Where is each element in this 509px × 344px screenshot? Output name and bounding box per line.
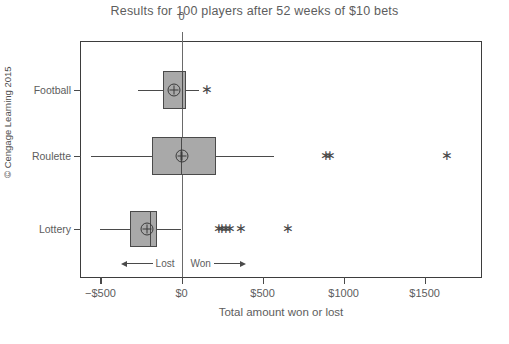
x-tick xyxy=(182,277,183,284)
outlier-marker: ∗ xyxy=(441,149,453,163)
y-tick-label-football: Football xyxy=(34,84,71,96)
plot-area: 0 ∗∗∗∗∗∗∗∗∗∗ FootballRouletteLottery −$5… xyxy=(80,41,482,278)
whisker-high xyxy=(216,156,274,157)
arrow-right-icon xyxy=(240,261,246,267)
direction-label: Won xyxy=(188,258,214,269)
mean-marker-icon xyxy=(140,223,153,236)
x-tick xyxy=(344,277,345,284)
direction-bar xyxy=(127,263,153,264)
y-tick-label-lottery: Lottery xyxy=(39,223,71,235)
x-tick xyxy=(425,277,426,284)
x-tick-label: −$500 xyxy=(85,287,116,299)
x-tick-label: $500 xyxy=(250,287,274,299)
y-tick xyxy=(74,156,81,157)
median-line xyxy=(182,71,183,109)
boxplot-figure: Results for 100 players after 52 weeks o… xyxy=(0,0,509,344)
y-tick xyxy=(74,90,81,91)
mean-marker-icon xyxy=(168,84,181,97)
y-tick-label-roulette: Roulette xyxy=(32,150,71,162)
x-tick xyxy=(100,277,101,284)
outlier-marker: ∗ xyxy=(235,222,247,236)
whisker-low xyxy=(138,90,163,91)
direction-bar xyxy=(214,263,240,264)
whisker-high xyxy=(157,229,181,230)
mean-marker-icon xyxy=(175,150,188,163)
copyright-credit: © Cengage Learning 2015 xyxy=(2,66,13,178)
x-tick-label: $1000 xyxy=(328,287,359,299)
direction-label: Lost xyxy=(153,258,178,269)
x-tick-label: $1500 xyxy=(409,287,440,299)
zero-reference-label: 0 xyxy=(178,10,184,22)
x-tick xyxy=(263,277,264,284)
whisker-low xyxy=(91,156,153,157)
x-axis-title: Total amount won or lost xyxy=(81,306,481,318)
direction-lost: Lost xyxy=(121,258,178,269)
whisker-high xyxy=(186,90,199,91)
x-tick-label: $0 xyxy=(175,287,187,299)
outlier-marker: ∗ xyxy=(324,149,336,163)
y-tick xyxy=(74,229,81,230)
lost-won-annotation: LostWon xyxy=(81,258,483,272)
outlier-marker: ∗ xyxy=(282,222,294,236)
direction-won: Won xyxy=(188,258,246,269)
chart-title: Results for 100 players after 52 weeks o… xyxy=(0,4,509,18)
whisker-low xyxy=(100,229,130,230)
outlier-marker: ∗ xyxy=(201,83,213,97)
